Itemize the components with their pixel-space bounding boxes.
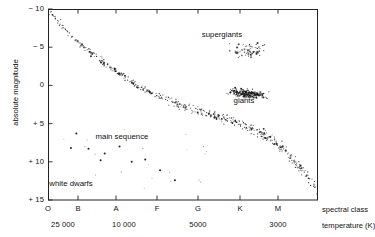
spectral-tick-label: K xyxy=(228,204,252,213)
axis-frame-layer xyxy=(49,10,318,201)
data-points-layer xyxy=(49,11,318,195)
spectral-tick-label: M xyxy=(266,204,290,213)
y-tick-label: + 10 xyxy=(6,157,44,166)
annotation-main-sequence: main sequence xyxy=(96,132,149,141)
temperature-tick-label: 25 000 xyxy=(41,220,85,229)
temperature-axis-title: temperature (K) xyxy=(322,221,375,230)
spectral-tick-label: F xyxy=(145,204,169,213)
temperature-tick-label: 3000 xyxy=(256,220,300,229)
annotation-white-dwarfs: white dwarfs xyxy=(49,179,92,188)
temperature-tick-label: 5000 xyxy=(176,220,220,229)
spectral-tick-label: A xyxy=(104,204,128,213)
annotation-giants: giants xyxy=(234,96,255,105)
spectral-tick-label: G xyxy=(186,204,210,213)
spectral-class-axis-title: spectral class xyxy=(322,205,368,214)
plot-frame xyxy=(49,10,318,201)
spectral-tick-label: O xyxy=(36,204,60,213)
y-tick-label: − 5 xyxy=(6,42,44,51)
annotation-supergiants: supergiants xyxy=(202,30,242,39)
axis-ticks-layer xyxy=(48,9,278,200)
temperature-tick-label: 10 000 xyxy=(102,220,146,229)
y-tick-label: − 10 xyxy=(6,4,44,13)
y-tick-label: + 15 xyxy=(6,195,44,204)
spectral-tick-label: B xyxy=(66,204,90,213)
y-tick-label: + 5 xyxy=(6,119,44,128)
y-tick-label: 0 xyxy=(6,80,44,89)
